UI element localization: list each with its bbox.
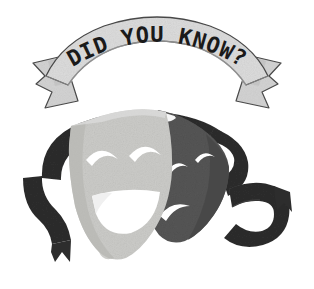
illustration-canvas: DID YOU KNOW? xyxy=(0,0,314,289)
did-you-know-illustration: DID YOU KNOW? xyxy=(0,0,314,289)
ribbon-banner: DID YOU KNOW? xyxy=(33,17,281,108)
comedy-mask xyxy=(69,109,172,259)
banner-title: DID YOU KNOW? xyxy=(63,22,251,71)
